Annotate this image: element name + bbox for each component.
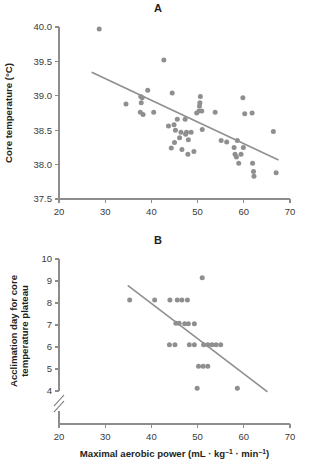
panel-a-plot: 37.538.038.539.039.540.0203040506070Core… — [0, 0, 316, 232]
panel-a-xtick-label: 40 — [146, 206, 157, 217]
xlabel-text: Maximal aerobic power (mL · kg — [80, 448, 226, 459]
panel-b-xtick-label: 30 — [100, 431, 111, 442]
panel-a-data-point — [242, 111, 247, 116]
panel-a-ytick-label: 37.5 — [34, 193, 53, 204]
panel-a-data-point — [236, 161, 241, 166]
panel-b-xtick-label: 20 — [54, 431, 65, 442]
panel-a-ytick-label: 40.0 — [34, 21, 53, 32]
panel-b-ylabel-line1: Acclimation day for core — [8, 275, 19, 387]
panel-b-ytick-label: 8 — [47, 297, 52, 308]
panel-a-xtick-label: 70 — [285, 206, 296, 217]
panel-a-xtick-label: 20 — [54, 206, 65, 217]
panel-a-data-point — [139, 100, 144, 105]
panel-b-plot: 45678910203040506070Acclimation day for … — [0, 232, 316, 465]
panel-b-ytick-label: 6 — [47, 341, 52, 352]
panel-b-regression-line — [128, 286, 267, 392]
panel-a-axes — [59, 27, 290, 199]
panel-a-data-point — [97, 27, 102, 32]
panel-b-data-point — [167, 297, 172, 302]
xlabel-text: · min — [233, 448, 259, 459]
panel-b-xtick-label: 50 — [192, 431, 203, 442]
panel-a-data-point — [123, 102, 128, 107]
panel-a-data-point — [224, 139, 229, 144]
panel-a-ytick-label: 38.5 — [34, 125, 53, 136]
panel-a-data-point — [145, 88, 150, 93]
panel-b-ytick-label: 9 — [47, 275, 52, 286]
panel-a-data-point — [191, 149, 196, 154]
panel-a-data-point — [239, 152, 244, 157]
panel-b-ylabel: Acclimation day for coretemperature plat… — [8, 275, 30, 387]
panel-b-xtick-label: 60 — [239, 431, 250, 442]
panel-a-data-point — [200, 127, 205, 132]
panel-b-data-point — [235, 386, 240, 391]
panel-a-data-point — [250, 111, 255, 116]
panel-a-ytick-label: 39.5 — [34, 56, 53, 67]
y-axis-break-icon — [54, 401, 64, 412]
panel-a-data-point — [251, 174, 256, 179]
panel-a-data-point — [140, 95, 145, 100]
panel-b-data-point — [201, 364, 206, 369]
panel-a-xtick-label: 50 — [192, 206, 203, 217]
panel-a-data-point — [175, 117, 180, 122]
figure-container: A 37.538.038.539.039.540.0203040506070Co… — [0, 0, 316, 465]
panel-b-data-point — [192, 321, 197, 326]
panel-b-data-point — [127, 297, 132, 302]
panel-a-ylabel: Core temperature (°C) — [3, 63, 14, 163]
panel-b-axes-lower — [59, 411, 290, 424]
panel-b-ylabel-line2: temperature plateau — [19, 285, 30, 377]
panel-a-data-point — [169, 146, 174, 151]
panel-a-data-point — [178, 130, 183, 135]
panel-b-data-point — [218, 342, 223, 347]
panel-a-xtick-label: 60 — [239, 206, 250, 217]
panel-b-data-point — [186, 321, 191, 326]
panel-b-data-point — [195, 386, 200, 391]
panel-a-data-point — [274, 170, 279, 175]
panel-a-data-point — [189, 130, 194, 135]
panel-a-data-point — [183, 132, 188, 137]
panel-a-xtick-label: 30 — [100, 206, 111, 217]
panel-a-data-point — [186, 137, 191, 142]
panel-a-data-point — [173, 128, 178, 133]
panel-a-data-point — [235, 138, 240, 143]
panel-a-data-point — [251, 169, 256, 174]
panel-a-data-point — [185, 152, 190, 157]
panel-a-data-point — [177, 135, 182, 140]
panel-b-data-point — [214, 342, 219, 347]
panel-a-data-point — [213, 110, 218, 115]
panel-b-data-point — [175, 297, 180, 302]
panel-b-data-point — [200, 275, 205, 280]
panel-a-data-point — [179, 147, 184, 152]
panel-a-data-point — [250, 161, 255, 166]
panel-b-data-point — [205, 364, 210, 369]
panel-a-data-point — [197, 104, 202, 109]
panel-b-ytick-label: 7 — [47, 319, 52, 330]
shared-xlabel: Maximal aerobic power (mL · kg–1 · min–1… — [80, 448, 269, 459]
panel-a-data-point — [240, 95, 245, 100]
panel-b-ytick-label: 4 — [47, 385, 52, 396]
y-axis-break-icon — [54, 395, 64, 406]
panel-b-xtick-label: 70 — [285, 431, 296, 442]
panel-b-data-point — [172, 342, 177, 347]
panel-a-data-point — [166, 124, 171, 129]
panel-b-data-point — [187, 342, 192, 347]
panel-a-data-point — [138, 110, 143, 115]
panel-a-data-point — [161, 58, 166, 63]
panel-a: A 37.538.038.539.039.540.0203040506070Co… — [0, 0, 316, 232]
panel-b-data-point — [196, 364, 201, 369]
panel-b-ytick-label: 10 — [41, 253, 52, 264]
panel-a-data-point — [170, 91, 175, 96]
panel-a-data-point — [234, 155, 239, 160]
panel-b-data-point — [152, 297, 157, 302]
panel-a-data-point — [198, 94, 203, 99]
panel-b-data-point — [167, 342, 172, 347]
panel-a-ytick-label: 38.0 — [34, 159, 53, 170]
panel-b-data-point — [179, 297, 184, 302]
panel-b-data-point — [185, 297, 190, 302]
panel-b-data-point — [177, 321, 182, 326]
panel-a-data-point — [241, 145, 246, 150]
panel-b-xtick-label: 40 — [146, 431, 157, 442]
panel-b-ytick-label: 5 — [47, 363, 52, 374]
panel-a-data-point — [172, 122, 177, 127]
panel-a-ytick-label: 39.0 — [34, 90, 53, 101]
panel-a-data-point — [219, 138, 224, 143]
